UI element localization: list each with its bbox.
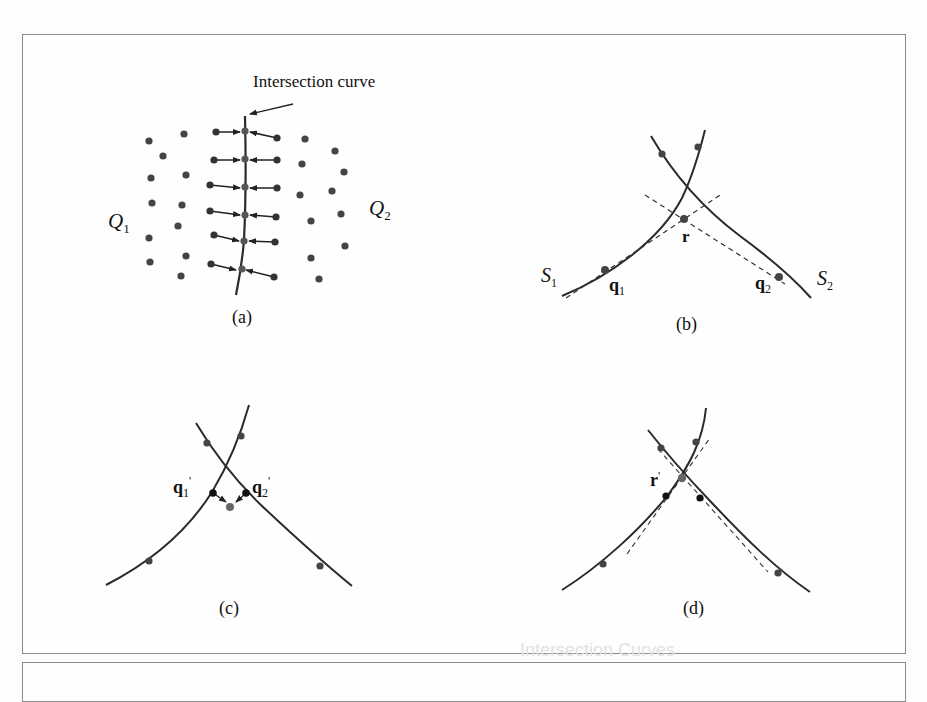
panel-d: r' (d) bbox=[562, 408, 810, 619]
panel-c-points bbox=[145, 432, 323, 569]
s2-label: S2 bbox=[817, 267, 833, 293]
d-point-s1 bbox=[662, 492, 669, 499]
q2-label-b: q2 bbox=[755, 273, 771, 296]
caption-d: (d) bbox=[683, 598, 704, 619]
curve-s1 bbox=[562, 130, 705, 296]
q1-prime-label: q1' bbox=[173, 474, 191, 500]
curve-d-s2 bbox=[648, 430, 810, 592]
caption-c: (c) bbox=[219, 598, 239, 619]
q2-prime-point bbox=[242, 489, 250, 497]
point-set-q1 bbox=[145, 130, 189, 279]
curve-s2 bbox=[651, 136, 811, 298]
q1-prime-point bbox=[209, 489, 217, 497]
panel-c-arrows bbox=[213, 493, 246, 502]
q2-label: Q2 bbox=[369, 196, 391, 223]
point-set-q2 bbox=[296, 135, 348, 282]
panel-a: Intersection curve bbox=[108, 72, 391, 328]
q2-prime-label: q2' bbox=[252, 474, 270, 500]
q1-label: Q1 bbox=[108, 209, 130, 236]
q1-label-b: q1 bbox=[609, 275, 625, 298]
caption-b: (b) bbox=[676, 314, 697, 335]
d-point-s2 bbox=[696, 494, 703, 501]
curve-c-s2 bbox=[196, 423, 352, 586]
panel-c: q1' q2' (c) bbox=[106, 405, 352, 619]
s1-label: S1 bbox=[541, 264, 557, 290]
projection-sources bbox=[206, 128, 280, 280]
panel-d-tangents bbox=[627, 438, 768, 572]
intersection-curve-label: Intersection curve bbox=[253, 72, 375, 91]
r-prime-point bbox=[678, 474, 686, 482]
panel-b: r q1 q2 S1 S2 (b) bbox=[541, 130, 833, 335]
curve-d-s1 bbox=[562, 408, 706, 590]
annotation-arrow bbox=[250, 104, 293, 114]
r-prime-label: r' bbox=[650, 469, 660, 490]
panel-b-points bbox=[601, 143, 783, 281]
caption-a: (a) bbox=[232, 307, 252, 328]
r-label: r bbox=[682, 227, 690, 246]
